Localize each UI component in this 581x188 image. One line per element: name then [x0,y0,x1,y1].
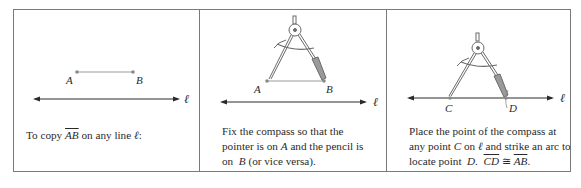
label-a: A [254,83,261,95]
compass-icon [269,16,326,81]
label-b: B [326,83,333,95]
label-b: B [136,74,143,86]
point-a [75,70,79,74]
panel-step-2: A B ℓ Fix the compass so that the pointe… [200,10,386,171]
point-d [504,96,508,100]
label-line-l: ℓ [373,95,378,110]
arrow-right-icon [173,97,180,102]
congruent-symbol: ≅ [499,155,514,167]
arrow-right-icon [547,96,554,101]
arrow-left-icon [407,96,414,101]
point-b [131,70,135,74]
compass-icon [449,33,508,97]
panel-step-3: C D ℓ Place the point of the compass at … [387,10,571,171]
caption-step-2: Fix the compass so that the pointer is o… [222,124,363,169]
panel-step-1: A B ℓ To copy AB on any line ℓ: [14,10,199,171]
label-c: C [445,102,452,114]
arrow-left-icon [33,97,40,102]
segment-ab-notation: AB [65,129,79,141]
point-a [265,79,269,83]
segment-cd-notation: CD [484,155,500,167]
label-d: D [509,102,517,114]
label-line-l: ℓ [560,91,565,106]
label-a: A [66,74,73,86]
caption-step-1: To copy AB on any line ℓ: [26,128,142,143]
point-c [448,96,452,100]
arrow-right-icon [360,100,367,105]
segment-ab-diagram [14,10,199,171]
label-line-l: ℓ [184,92,189,107]
caption-step-3: Place the point of the compass at any po… [409,124,571,169]
segment-ab-notation: AB [514,155,528,167]
arrow-left-icon [220,100,227,105]
